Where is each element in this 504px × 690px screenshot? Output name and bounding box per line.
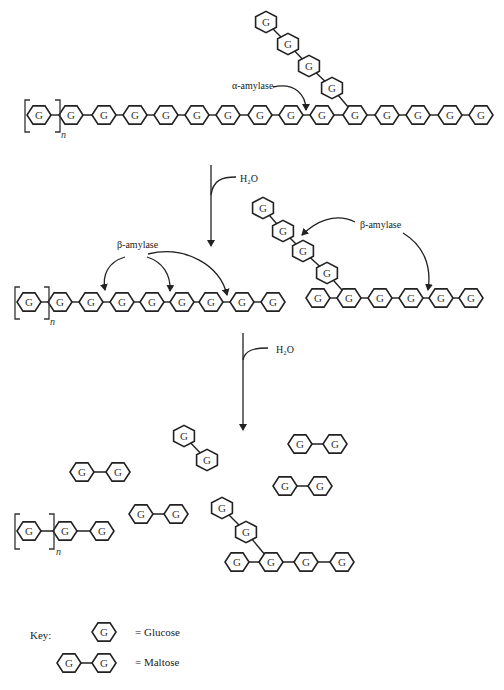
glucose-unit: G xyxy=(308,477,332,495)
glucose-unit: G xyxy=(59,106,83,124)
glucose-letter: G xyxy=(87,296,95,308)
glucose-letter: G xyxy=(218,502,226,514)
glucose-letter: G xyxy=(314,292,322,304)
glucose-letter: G xyxy=(383,109,391,121)
beta-amylase-arrow-right-1 xyxy=(302,218,355,235)
glucose-unit: G xyxy=(343,106,367,124)
branch-glucose-unit: G xyxy=(212,497,233,518)
glucose-letter: G xyxy=(25,296,33,308)
glucose-letter: G xyxy=(25,525,33,537)
glucose-letter: G xyxy=(78,466,86,478)
glucose-letter: G xyxy=(477,109,485,121)
glucose-letter: G xyxy=(345,292,353,304)
glucose-letter: G xyxy=(467,292,475,304)
branch-glucose-unit: G xyxy=(256,11,277,32)
branch-glucose-unit: G xyxy=(197,449,218,470)
beta-amylase-arrow-right-2 xyxy=(403,233,429,290)
glucose-letter: G xyxy=(296,438,304,450)
glucose-letter: G xyxy=(162,109,170,121)
glucose-unit: G xyxy=(330,553,354,571)
glucose-unit: G xyxy=(230,293,254,311)
branch-glucose-unit: G xyxy=(278,33,299,54)
glucose-letter: G xyxy=(269,296,277,308)
glucose-letter: G xyxy=(65,657,73,669)
beta-amylase-arrow-left-2 xyxy=(147,257,170,291)
glucose-unit: G xyxy=(57,654,81,672)
glucose-unit: G xyxy=(225,553,249,571)
branch-glucose-unit: G xyxy=(299,55,320,76)
glucose-unit: G xyxy=(310,106,334,124)
water-label-step1: H₂O xyxy=(240,173,258,184)
beta-amylase-label-left: β-amylase xyxy=(117,239,159,250)
glucose-letter: G xyxy=(207,296,215,308)
water-label-step2: H₂O xyxy=(276,344,294,355)
glucose-letter: G xyxy=(67,109,75,121)
glucose-letter: G xyxy=(238,296,246,308)
glucose-unit: G xyxy=(170,293,194,311)
glucose-letter: G xyxy=(407,292,415,304)
glucose-unit: G xyxy=(185,106,209,124)
glucose-unit: G xyxy=(129,505,153,523)
beta-amylase-arrow-left-3 xyxy=(148,252,227,295)
glucose-letter: G xyxy=(338,556,346,568)
glucose-letter: G xyxy=(118,296,126,308)
glucose-letter: G xyxy=(328,82,336,94)
branch-glucose-unit: G xyxy=(317,262,338,283)
glucose-unit: G xyxy=(53,522,77,540)
water-input-curve-1 xyxy=(211,177,236,195)
glucose-letter: G xyxy=(56,296,64,308)
water-input-curve-2 xyxy=(243,348,268,360)
key-glucose-icon: G xyxy=(92,623,116,641)
glucose-unit: G xyxy=(79,293,103,311)
branch-glucose-unit: G xyxy=(253,197,274,218)
glucose-unit: G xyxy=(70,463,94,481)
repeat-subscript: n xyxy=(61,129,66,140)
glucose-unit: G xyxy=(294,553,318,571)
branch-glucose-unit: G xyxy=(174,425,195,446)
glucose-unit: G xyxy=(438,106,462,124)
glucose-unit: G xyxy=(429,289,453,307)
glucose-letter: G xyxy=(279,225,287,237)
glucose-letter: G xyxy=(267,556,275,568)
glucose-unit: G xyxy=(216,106,240,124)
glucose-unit: G xyxy=(17,293,41,311)
glucose-unit: G xyxy=(368,289,392,307)
glucose-unit: G xyxy=(337,289,361,307)
branch-glucose-unit: G xyxy=(322,77,343,98)
glucose-letter: G xyxy=(242,526,250,538)
glucose-letter: G xyxy=(131,109,139,121)
glucose-unit: G xyxy=(140,293,164,311)
glucose-letter: G xyxy=(331,438,339,450)
glucose-letter: G xyxy=(316,480,324,492)
alpha-amylase-label: α-amylase xyxy=(232,80,274,91)
glucose-letter: G xyxy=(193,109,201,121)
starch-hydrolysis-diagram: GGGGGGGGGGGGGGGGGGGGGGGGGGGGGGGGGGGGGGGG… xyxy=(0,0,504,690)
key-maltose-label: = Maltose xyxy=(135,656,180,668)
glucose-letter: G xyxy=(35,109,43,121)
glucose-letter: G xyxy=(178,296,186,308)
glucose-unit: G xyxy=(288,435,312,453)
beta-amylase-arrow-left-1 xyxy=(104,257,125,290)
glucose-unit: G xyxy=(110,293,134,311)
glucose-unit: G xyxy=(323,435,347,453)
glucose-unit: G xyxy=(406,106,430,124)
glucose-letter: G xyxy=(376,292,384,304)
glucose-letter: G xyxy=(287,109,295,121)
repeat-subscript: n xyxy=(50,316,55,327)
glucose-letter: G xyxy=(281,480,289,492)
glucose-unit: G xyxy=(90,522,114,540)
glucose-letter: G xyxy=(446,109,454,121)
glucose-unit: G xyxy=(469,106,493,124)
glucose-unit: G xyxy=(459,289,483,307)
glucose-unit: G xyxy=(199,293,223,311)
glucose-letter: G xyxy=(256,109,264,121)
glucose-unit: G xyxy=(259,553,283,571)
glucose-letter: G xyxy=(437,292,445,304)
glucose-letter: G xyxy=(318,109,326,121)
glucose-unit: G xyxy=(154,106,178,124)
glucose-letter: G xyxy=(262,16,270,28)
glucose-letter: G xyxy=(61,525,69,537)
glucose-unit: G xyxy=(48,293,72,311)
glucose-unit: G xyxy=(92,654,116,672)
glucose-unit: G xyxy=(164,505,188,523)
